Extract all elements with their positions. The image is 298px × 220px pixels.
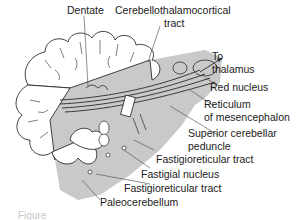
figure-caption-partial: Figure [18, 210, 46, 220]
label-reticulum: Reticulum [204, 98, 251, 110]
label-dentate: Dentate [67, 4, 104, 16]
label-fastigioreticular-upper: Fastigioreticular tract [156, 153, 253, 165]
label-to: To [212, 50, 223, 62]
label-peduncle: peduncle [188, 140, 231, 152]
label-superior-cerebellar: Superior cerebellar [188, 127, 277, 139]
label-of-mesencephalon: of mesencephalon [204, 111, 290, 123]
label-thalamus: thalamus [212, 63, 255, 75]
label-cerebellothalamocortical: Cerebellothalamocortical [115, 4, 231, 16]
label-fastigial-nucleus: Fastigial nucleus [141, 168, 219, 180]
label-cerebellothalamocortical-tract: tract [164, 17, 184, 29]
label-red-nucleus: Red nucleus [210, 81, 268, 93]
label-fastigioreticular-lower: Fastigioreticular tract [124, 182, 221, 194]
cerebellar-pathways-diagram: Dentate Cerebellothalamocortical tract T… [0, 0, 298, 220]
label-paleocerebellum: Paleocerebellum [100, 196, 178, 208]
